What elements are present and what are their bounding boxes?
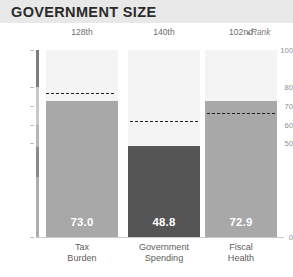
reference-line-fiscal-health — [207, 113, 275, 114]
category-label-line-1: Government — [125, 242, 203, 253]
y-tick-mark-50 — [30, 143, 34, 144]
left-arrow-icon: ◂ — [246, 29, 250, 37]
category-label-government-spending: Government Spending — [125, 242, 203, 265]
bar-value-fiscal-health: 72.9 — [205, 216, 277, 228]
y-tick-mark-70 — [30, 106, 34, 107]
y-axis-label-80: 80 — [267, 83, 293, 92]
reference-line-tax-burden — [46, 93, 114, 94]
bar-value-tax-burden: 73.0 — [46, 216, 118, 228]
rank-annotation: ◂Rank — [246, 27, 270, 37]
reference-line-government-spending — [130, 121, 198, 122]
category-label-tax-burden: Tax Burden — [46, 242, 118, 265]
category-label-line-1: Fiscal — [205, 242, 277, 253]
category-label-line-2: Spending — [125, 253, 203, 264]
title-band: GOVERNMENT SIZE — [0, 0, 293, 23]
category-label-fiscal-health: Fiscal Health — [205, 242, 277, 265]
category-label-line-2: Burden — [46, 253, 118, 264]
y-tick-mark-100 — [30, 50, 34, 51]
y-tick-mark-80 — [30, 87, 34, 88]
y-tick-mark-60 — [30, 125, 34, 126]
y-tick-mark-0 — [30, 237, 34, 238]
category-label-line-1: Tax — [46, 242, 118, 253]
government-size-bar-chart: 128th 140th 102nd ◂Rank 100 80 70 60 50 … — [0, 23, 293, 277]
rank-label-government-spending: 140th — [128, 27, 200, 37]
y-axis-label-100: 100 — [267, 46, 293, 55]
x-axis-baseline — [36, 237, 284, 238]
y-axis-line — [36, 50, 39, 237]
category-label-line-2: Health — [205, 253, 277, 264]
rank-label-tax-burden: 128th — [46, 27, 118, 37]
page-title: GOVERNMENT SIZE — [11, 4, 156, 20]
rank-annotation-label: Rank — [251, 27, 270, 37]
bar-value-government-spending: 48.8 — [128, 216, 200, 228]
